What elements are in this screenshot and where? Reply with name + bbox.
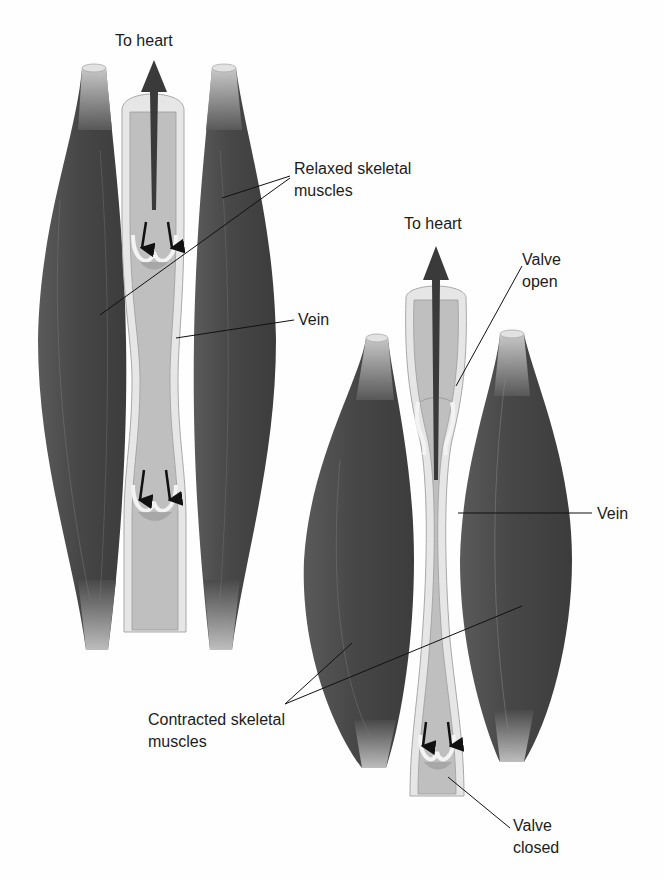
to-heart-label: To heart (115, 31, 173, 50)
relaxed-panel (38, 60, 294, 650)
relaxed-muscle-right (194, 64, 276, 650)
contracted-muscles-label-line2: muscles (148, 732, 207, 751)
relaxed-muscles-label-line1: Relaxed skeletal (294, 159, 411, 178)
relaxed-muscles-label-line2: muscles (294, 181, 353, 200)
valve-closed-label-line1: Valve (513, 816, 552, 835)
relaxed-muscle-left (38, 64, 126, 650)
illustration (0, 0, 664, 880)
valve-open-label-line2: open (522, 272, 558, 291)
venous-return-diagram: To heart Relaxed skeletal muscles Vein T… (0, 0, 664, 880)
contracted-muscles-label-line1: Contracted skeletal (148, 710, 285, 729)
contracted-muscle-right (460, 330, 572, 762)
vein-label: Vein (298, 310, 329, 329)
valve-open-label-line1: Valve (522, 250, 561, 269)
contracted-panel (285, 246, 592, 828)
contracted-muscle-left (304, 334, 414, 768)
valve-closed-label-line2: closed (513, 838, 559, 857)
to-heart-label: To heart (404, 214, 462, 233)
vein-label: Vein (597, 504, 628, 523)
